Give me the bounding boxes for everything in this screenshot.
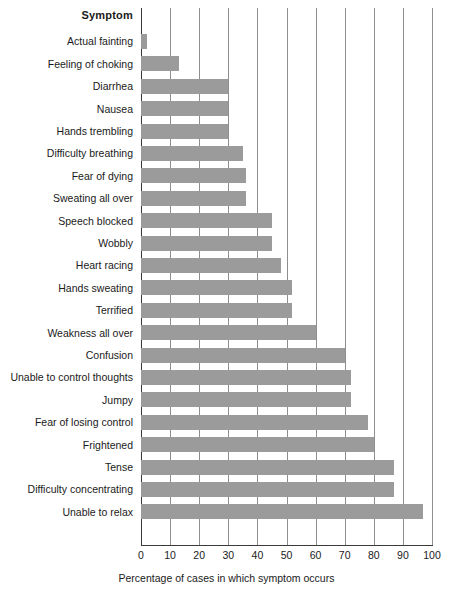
x-axis-tick-label: 40 [252,549,264,561]
bar-row [141,30,432,52]
y-axis-tick-label: Unable to relax [0,501,133,523]
y-axis-tick-label: Nausea [0,98,133,120]
plot-area [141,8,432,545]
bar-row [141,434,432,456]
bar [141,437,374,452]
x-axis-tick-label: 0 [138,549,144,561]
x-axis-tick-label: 50 [281,549,293,561]
y-axis-tick-label: Tense [0,456,133,478]
y-axis-tick-label: Fear of losing control [0,411,133,433]
y-axis-tick-label: Confusion [0,344,133,366]
y-axis-tick-labels: Actual faintingFeeling of chokingDiarrhe… [0,8,133,545]
bar [141,303,292,318]
y-axis-tick-label: Sweating all over [0,187,133,209]
bar-row [141,366,432,388]
y-axis-tick-label: Difficulty concentrating [0,478,133,500]
bar [141,370,351,385]
bar-row [141,187,432,209]
y-axis-tick-label: Hands trembling [0,120,133,142]
bar [141,56,179,71]
x-axis-tick-label: 80 [368,549,380,561]
bar-row [141,478,432,500]
bar [141,280,292,295]
bars-layer [141,8,432,545]
bar-row [141,75,432,97]
y-axis-tick-label: Fear of dying [0,165,133,187]
bar-row [141,232,432,254]
x-axis-tick-label: 90 [397,549,409,561]
bar-row [141,53,432,75]
y-axis-tick-label: Feeling of choking [0,53,133,75]
bar-row [141,210,432,232]
bar-row [141,277,432,299]
y-axis-tick-label: Diarrhea [0,75,133,97]
bar-row [141,299,432,321]
bar [141,124,228,139]
bar-row [141,254,432,276]
bar-row [141,344,432,366]
bar-row [141,165,432,187]
x-axis-tick-label: 30 [222,549,234,561]
bar [141,392,351,407]
bar-row [141,501,432,523]
y-axis-tick-label: Frightened [0,434,133,456]
bar-row [141,142,432,164]
x-axis-tick-labels: 0102030405060708090100 [141,549,432,565]
bar [141,482,394,497]
bar-row [141,389,432,411]
bar [141,101,228,116]
bar [141,415,368,430]
bar-chart: Symptom Actual faintingFeeling of chokin… [0,0,453,600]
y-axis-tick-label: Difficulty breathing [0,142,133,164]
gridline-100 [432,8,433,545]
bar [141,325,316,340]
bar-row [141,322,432,344]
bar [141,191,246,206]
y-axis-tick-label: Hands sweating [0,277,133,299]
x-axis-tick-label: 20 [193,549,205,561]
bar [141,236,272,251]
bar-row [141,120,432,142]
bar [141,34,147,49]
x-axis-tick-label: 100 [423,549,441,561]
bar [141,79,228,94]
y-axis-tick-label: Actual fainting [0,30,133,52]
bar-row [141,98,432,120]
bar [141,146,243,161]
bar [141,258,281,273]
bar-row [141,456,432,478]
x-axis-tick-label: 70 [339,549,351,561]
y-axis-tick-label: Jumpy [0,389,133,411]
y-axis-tick-label: Speech blocked [0,210,133,232]
x-axis-tick-label: 60 [310,549,322,561]
bar [141,504,423,519]
y-axis-tick-label: Terrified [0,299,133,321]
y-axis-tick-label: Wobbly [0,232,133,254]
y-axis-tick-label: Heart racing [0,254,133,276]
y-axis-tick-label: Weakness all over [0,322,133,344]
y-axis-tick-label: Unable to control thoughts [0,366,133,388]
x-axis-line [141,545,433,546]
bar-row [141,411,432,433]
x-axis-title: Percentage of cases in which symptom occ… [0,572,453,584]
bar [141,168,246,183]
bar [141,348,345,363]
bar [141,460,394,475]
bar [141,213,272,228]
x-axis-tick-label: 10 [164,549,176,561]
